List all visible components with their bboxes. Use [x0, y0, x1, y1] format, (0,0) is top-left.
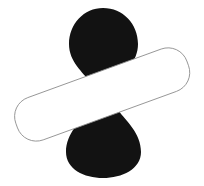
figure-canvas: [0, 0, 204, 186]
figure-svg: [0, 0, 204, 186]
